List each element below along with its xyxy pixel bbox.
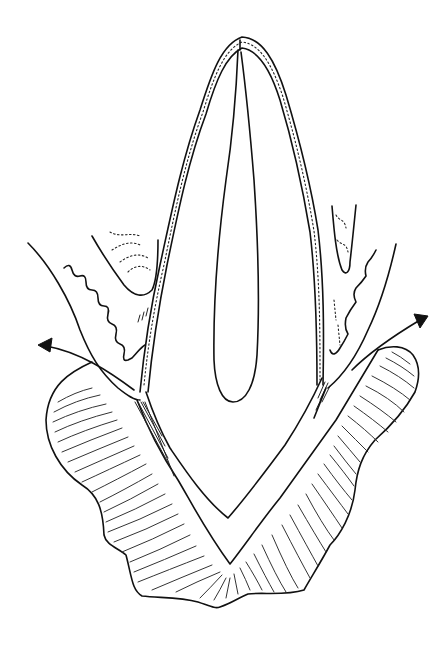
alveolar-bone: [46, 347, 419, 608]
pulp-chamber: [214, 50, 259, 402]
bone-hatching-bottom: [200, 535, 298, 600]
periodontal-fibers: [135, 382, 330, 476]
gingiva-left: [28, 232, 158, 400]
enamel-crown: [140, 37, 323, 392]
bone-hatching-left: [53, 388, 220, 592]
root-dentin: [146, 378, 322, 518]
tooth-diagram: [0, 0, 446, 652]
bone-hatching-right: [282, 352, 414, 578]
